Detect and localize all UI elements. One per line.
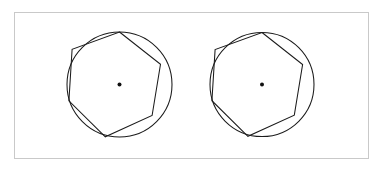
right-figure bbox=[210, 33, 314, 137]
left-center-dot bbox=[118, 83, 122, 87]
right-center-dot bbox=[260, 83, 264, 87]
left-figure bbox=[67, 32, 172, 137]
figure-root bbox=[0, 0, 385, 171]
geometry-canvas bbox=[0, 0, 385, 171]
